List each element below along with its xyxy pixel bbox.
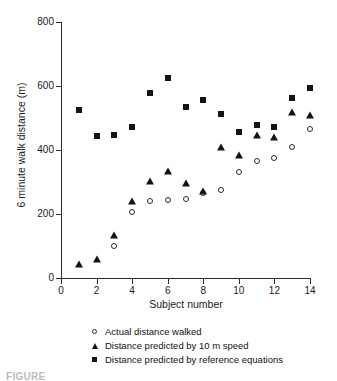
legend-item: Distance predicted by reference equation… bbox=[92, 353, 332, 366]
data-point-filled-square bbox=[147, 90, 153, 96]
data-point-filled-square bbox=[289, 95, 295, 101]
x-tick-mark bbox=[97, 279, 98, 284]
x-tick-label: 0 bbox=[46, 285, 76, 296]
data-point-filled-triangle bbox=[146, 178, 154, 185]
data-point-open-circle bbox=[111, 243, 117, 249]
data-point-filled-square bbox=[76, 107, 82, 113]
legend-marker-filled-triangle-icon bbox=[92, 343, 105, 349]
x-tick-mark bbox=[203, 279, 204, 284]
legend-item: Actual distance walked bbox=[92, 325, 332, 338]
data-point-filled-triangle bbox=[164, 167, 172, 174]
data-point-filled-triangle bbox=[93, 255, 101, 262]
legend-label: Distance predicted by reference equation… bbox=[105, 354, 283, 365]
data-point-open-circle bbox=[254, 158, 260, 164]
data-point-filled-square bbox=[183, 104, 189, 110]
data-point-filled-triangle bbox=[270, 134, 278, 141]
y-tick-mark bbox=[56, 86, 61, 87]
x-tick-label: 2 bbox=[82, 285, 112, 296]
data-point-filled-square bbox=[129, 124, 135, 130]
data-point-filled-triangle bbox=[306, 111, 314, 118]
data-point-filled-triangle bbox=[288, 108, 296, 115]
figure-container: 0200400600800 6 minute walk distance (m)… bbox=[0, 0, 337, 381]
y-tick-mark bbox=[56, 22, 61, 23]
data-point-filled-triangle bbox=[235, 151, 243, 158]
data-point-open-circle bbox=[147, 198, 153, 204]
x-tick-mark bbox=[239, 279, 240, 284]
data-point-filled-triangle bbox=[110, 231, 118, 238]
data-point-filled-triangle bbox=[217, 144, 225, 151]
y-tick-label: 800 bbox=[14, 17, 54, 27]
data-point-filled-square bbox=[111, 132, 117, 138]
data-point-open-circle bbox=[289, 144, 295, 150]
data-point-filled-square bbox=[271, 124, 277, 130]
data-point-filled-square bbox=[218, 111, 224, 117]
legend-label: Actual distance walked bbox=[105, 326, 202, 337]
data-point-open-circle bbox=[271, 155, 277, 161]
data-point-filled-triangle bbox=[182, 179, 190, 186]
x-axis-title: Subject number bbox=[61, 298, 311, 310]
chart-legend: Actual distance walkedDistance predicted… bbox=[92, 325, 332, 367]
x-tick-label: 8 bbox=[188, 285, 218, 296]
data-point-filled-square bbox=[165, 75, 171, 81]
data-point-filled-square bbox=[236, 129, 242, 135]
x-tick-mark bbox=[132, 279, 133, 284]
filled-square-icon bbox=[92, 357, 97, 362]
y-tick-label: 0 bbox=[14, 273, 54, 283]
filled-triangle-icon bbox=[92, 343, 98, 349]
data-point-filled-triangle bbox=[75, 260, 83, 267]
x-tick-label: 6 bbox=[153, 285, 183, 296]
x-tick-mark bbox=[61, 279, 62, 284]
plot-area bbox=[61, 22, 310, 278]
data-point-filled-triangle bbox=[128, 198, 136, 205]
data-point-open-circle bbox=[307, 126, 313, 132]
x-tick-label: 4 bbox=[117, 285, 147, 296]
data-point-open-circle bbox=[183, 196, 189, 202]
data-point-filled-triangle bbox=[199, 187, 207, 194]
data-point-filled-square bbox=[254, 122, 260, 128]
y-axis-title: 6 minute walk distance (m) bbox=[15, 45, 27, 245]
figure-caption: FIGURE bbox=[6, 371, 46, 381]
x-tick-mark bbox=[168, 279, 169, 284]
x-tick-label: 12 bbox=[259, 285, 289, 296]
x-tick-label: 10 bbox=[224, 285, 254, 296]
data-point-filled-triangle bbox=[253, 131, 261, 138]
data-point-filled-square bbox=[94, 133, 100, 139]
x-tick-mark bbox=[310, 279, 311, 284]
open-circle-icon bbox=[92, 329, 97, 334]
y-tick-mark bbox=[56, 150, 61, 151]
legend-marker-open-circle-icon bbox=[92, 329, 105, 334]
y-tick-mark bbox=[56, 214, 61, 215]
data-point-open-circle bbox=[129, 209, 135, 215]
data-point-open-circle bbox=[236, 169, 242, 175]
data-point-open-circle bbox=[218, 187, 224, 193]
data-point-filled-square bbox=[307, 85, 313, 91]
legend-label: Distance predicted by 10 m speed bbox=[105, 340, 249, 351]
data-point-filled-square bbox=[200, 97, 206, 103]
x-tick-mark bbox=[274, 279, 275, 284]
data-point-open-circle bbox=[165, 197, 171, 203]
x-tick-label: 14 bbox=[295, 285, 325, 296]
legend-item: Distance predicted by 10 m speed bbox=[92, 339, 332, 352]
legend-marker-filled-square-icon bbox=[92, 357, 105, 362]
